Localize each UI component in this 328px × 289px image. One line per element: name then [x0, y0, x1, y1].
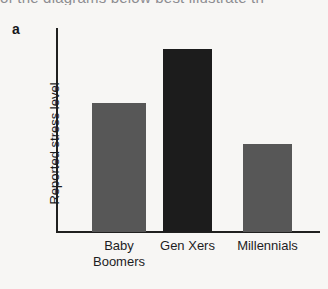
clipped-header-text: of the diagrams below best illustrate th	[0, 0, 328, 5]
bar-chart-figure: of the diagrams below best illustrate th…	[0, 0, 328, 289]
bar-baby-boomers	[92, 103, 146, 232]
y-axis-label: Reported stress level	[47, 54, 62, 234]
bar-millennials	[243, 144, 292, 232]
bar-gen-xers	[163, 49, 212, 232]
panel-label-a: a	[12, 21, 20, 37]
x-axis-label-millennials: Millennials	[220, 238, 316, 254]
